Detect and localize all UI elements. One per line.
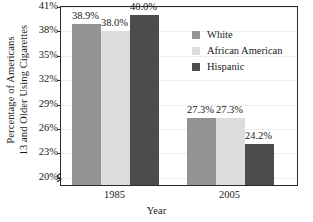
y-axis-tick-mark	[57, 129, 61, 130]
y-axis-tick-label: 32%	[32, 74, 58, 85]
legend-label-hispanic: Hispanic	[207, 59, 244, 75]
y-axis-tick-mark	[57, 31, 61, 32]
bar[interactable]	[130, 15, 159, 186]
y-axis-tick-label: 26%	[32, 123, 58, 134]
legend-swatch-hispanic-icon	[192, 63, 200, 71]
y-axis-tick-mark	[57, 153, 61, 154]
x-axis-tick-label: 1985	[104, 189, 125, 201]
x-axis-title: Year	[0, 205, 313, 217]
y-axis-tick-mark	[57, 105, 61, 106]
bar[interactable]	[101, 31, 130, 186]
x-axis-line	[60, 185, 298, 186]
bar-value-label: 24.2%	[245, 130, 272, 141]
y-axis-tick-label: 41%	[32, 1, 58, 12]
bar-value-label: 38.9%	[72, 10, 99, 21]
bar-value-label: 27.3%	[216, 104, 243, 115]
bar-chart-figure: Percentage of Americans 13 and Older Usi…	[0, 0, 313, 222]
bar-value-label: 40.0%	[130, 1, 157, 12]
legend-item-african-american[interactable]: African American	[192, 43, 283, 59]
legend-label-white: White	[207, 27, 233, 43]
y-axis-title-line-2: 13 and Older Using Cigarettes	[17, 25, 30, 156]
y-axis-tick-label: 29%	[32, 98, 58, 109]
y-axis-tick-label: 23%	[32, 147, 58, 158]
bar[interactable]	[245, 144, 274, 186]
y-axis-tick-label: 38%	[32, 25, 58, 36]
y-axis-tick-labels: 20%23%26%29%32%35%38%41%	[31, 0, 58, 222]
bar-value-label: 27.3%	[187, 104, 214, 115]
legend-item-hispanic[interactable]: Hispanic	[192, 59, 283, 75]
y-axis-tick-mark	[57, 7, 61, 8]
y-axis-title-line-1: Percentage of Americans	[4, 25, 17, 156]
x-axis-tick-label: 2005	[219, 189, 240, 201]
legend-item-white[interactable]: White	[192, 27, 283, 43]
axis-break-icon	[56, 172, 65, 183]
y-axis-tick-mark	[57, 56, 61, 57]
y-axis-tick-mark	[57, 80, 61, 81]
bar[interactable]	[187, 118, 216, 186]
legend-label-african-american: African American	[207, 43, 283, 59]
legend-swatch-white-icon	[192, 31, 200, 39]
legend: White African American Hispanic	[192, 27, 283, 75]
bar[interactable]	[216, 118, 245, 186]
bar-value-label: 38.0%	[101, 17, 128, 28]
gridline	[61, 7, 297, 8]
y-axis-title: Percentage of Americans 13 and Older Usi…	[0, 0, 34, 180]
bar[interactable]	[72, 24, 101, 186]
y-axis-tick-label: 35%	[32, 50, 58, 61]
y-axis-tick-label: 20%	[32, 172, 58, 183]
legend-swatch-african-american-icon	[192, 47, 200, 55]
